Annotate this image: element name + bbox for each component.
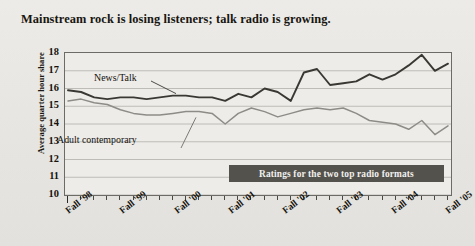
x-axis-minor-tick xyxy=(382,196,383,200)
x-axis-minor-tick xyxy=(316,196,317,200)
series-line-adult-contemporary xyxy=(68,99,448,135)
leader-line-adult-contemporary xyxy=(181,117,196,148)
y-axis-tick-label: 10 xyxy=(37,189,59,199)
x-axis-minor-tick xyxy=(264,196,265,200)
x-axis-minor-tick xyxy=(172,196,173,200)
leader-line-news-talk xyxy=(151,81,176,94)
callout-box: Ratings for the two top radio formats xyxy=(229,165,444,182)
page-title: Mainstream rock is losing listeners; tal… xyxy=(21,12,451,27)
x-axis-minor-tick xyxy=(329,196,330,200)
chart-page: Mainstream rock is losing listeners; tal… xyxy=(0,0,475,246)
x-axis-minor-tick xyxy=(434,196,435,200)
x-axis-minor-tick xyxy=(159,196,160,200)
y-axis-title-wrap: Average quarter hour share xyxy=(8,58,22,188)
x-axis-tick-labels: Fall '98Fall '99Fall '00Fall '01Fall '02… xyxy=(64,205,464,245)
x-axis-minor-tick xyxy=(368,196,369,200)
y-axis-title: Average quarter hour share xyxy=(36,28,46,178)
x-axis-minor-tick xyxy=(106,196,107,200)
series-label-news-talk: News/Talk xyxy=(94,72,137,83)
x-axis-minor-tick xyxy=(119,196,120,200)
series-label-adult-contemporary: Adult contemporary xyxy=(57,134,137,145)
x-axis-minor-tick xyxy=(277,196,278,200)
callout-text: Ratings for the two top radio formats xyxy=(259,169,414,179)
x-axis-minor-tick xyxy=(211,196,212,200)
x-axis-minor-tick xyxy=(395,196,396,200)
x-axis-minor-tick xyxy=(224,196,225,200)
x-axis-minor-tick xyxy=(447,196,448,200)
x-axis-minor-tick xyxy=(421,196,422,200)
